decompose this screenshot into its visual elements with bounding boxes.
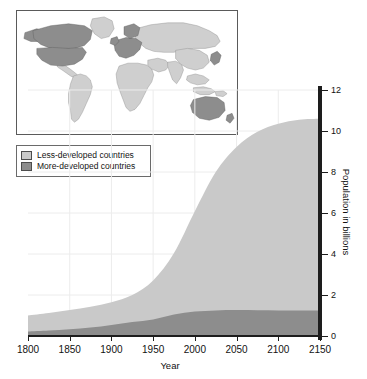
y-axis-tick [322, 295, 328, 296]
x-axis-tick-label: 2100 [267, 344, 289, 355]
x-axis-tick [28, 336, 29, 341]
y-axis-tick-label: 6 [331, 209, 336, 218]
x-axis-tick [278, 336, 279, 341]
y-axis-tick-label: 10 [331, 127, 341, 136]
x-axis-tick-label: 1850 [59, 344, 81, 355]
figure-root: Less-developed countries More-developed … [0, 0, 367, 379]
y-axis-tick-label: 12 [331, 86, 341, 95]
x-axis-tick [153, 336, 154, 341]
y-axis-tick-label: 8 [331, 168, 336, 177]
y-axis-tick [322, 336, 328, 337]
x-axis-tick-label: 1900 [100, 344, 122, 355]
area-series-layer [28, 119, 320, 336]
x-axis-tick [111, 336, 112, 341]
y-axis-tick [322, 254, 328, 255]
plot-area [28, 90, 320, 336]
x-axis-tick-label: 1950 [142, 344, 164, 355]
y-axis-tick-label: 4 [331, 250, 336, 259]
x-axis-tick-label: 2150 [309, 344, 331, 355]
x-axis-line [28, 335, 320, 337]
x-axis-tick-label: 2000 [184, 344, 206, 355]
x-axis-tick-label: 2050 [225, 344, 247, 355]
x-axis-tick [195, 336, 196, 341]
y-axis-tick-label: 2 [331, 291, 336, 300]
y-axis-tick [322, 172, 328, 173]
y-axis-tick [322, 90, 328, 91]
y-axis-tick [322, 213, 328, 214]
x-axis-tick [70, 336, 71, 341]
x-axis-tick [320, 336, 321, 341]
x-axis-tick-label: 1800 [17, 344, 39, 355]
y-axis-tick [322, 131, 328, 132]
area-series-less-developed [28, 119, 320, 336]
stacked-area-chart [28, 90, 320, 336]
y-axis-title: Population in billions [341, 169, 352, 256]
y-axis-tick-label: 0 [331, 332, 336, 341]
x-axis-tick [237, 336, 238, 341]
x-axis-title: Year [0, 360, 340, 371]
